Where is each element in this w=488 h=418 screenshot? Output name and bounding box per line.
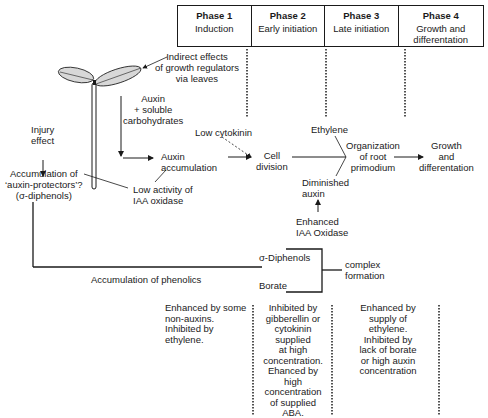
phase-3-subtitle: Late initiation: [333, 23, 389, 34]
text-line: via leaves: [155, 73, 239, 84]
text-line: (σ-diphenols): [5, 190, 83, 201]
text-line: Enhanced by some: [165, 303, 246, 314]
text-line: concentration: [259, 387, 327, 398]
low-cytokinin-label: Low cytokinin: [195, 127, 252, 138]
indirect-effects-label: Indirect effects of growth regulators vi…: [155, 51, 239, 84]
text-line: of growth regulators: [155, 62, 239, 73]
phase-2-subtitle: Early initiation: [258, 23, 317, 34]
text-line: accumulation: [161, 162, 217, 173]
text-line: Ehanced by: [259, 366, 327, 377]
phase-table: Phase 1 Induction Phase 2 Early initiati…: [177, 5, 484, 47]
text-line: Diminished: [302, 177, 349, 188]
text-line: effect: [31, 135, 54, 146]
text-line: Accumulation of: [5, 168, 83, 179]
text-line: auxin: [302, 188, 349, 199]
text-line: Indirect effects: [155, 51, 239, 62]
phase-1-notes: Enhanced by some non-auxins. Inhibited b…: [165, 303, 246, 345]
text-line: Enhanced by: [352, 303, 424, 314]
phase-3-title: Phase 3: [325, 10, 398, 21]
phase-1-subtitle: Induction: [195, 23, 234, 34]
text-line: Low activity of: [133, 184, 193, 195]
organization-label: Organization of root primodium: [346, 140, 400, 173]
phase-4-subtitle: Growth and differentation: [413, 23, 468, 45]
text-line: ethylene.: [165, 335, 246, 346]
accumulation-phenolics-label: Accumulation of phenolics: [91, 274, 201, 285]
text-line: Inhibited by: [259, 303, 327, 314]
text-line: cytokinin: [259, 324, 327, 335]
phase-4-cell: Phase 4 Growth and differentation: [399, 6, 484, 46]
phase-3-cell: Phase 3 Late initiation: [325, 6, 399, 46]
text-line: complex: [345, 259, 385, 270]
growth-differentiation-label: Growth and differentation: [419, 140, 474, 173]
auxin-protectors-label: Accumulation of ‘auxin-protectors’? (σ-d…: [5, 168, 83, 201]
text-line: Organization: [346, 140, 400, 151]
text-line: IAA Oxidase: [296, 227, 348, 238]
auxin-accumulation-label: Auxin accumulation: [161, 151, 217, 173]
injury-effect-label: Injury effect: [31, 124, 54, 146]
text-line: Growth: [419, 140, 474, 151]
text-line: ABA.: [259, 408, 327, 418]
text-line: ‘auxin-protectors’?: [5, 179, 83, 190]
low-iaa-oxidase-label: Low activity of IAA oxidase: [133, 184, 193, 206]
phase-4-title: Phase 4: [405, 10, 478, 21]
cell-division-label: Cell division: [256, 150, 288, 172]
text-line: Injury: [31, 124, 54, 135]
text-line: division: [256, 161, 288, 172]
phase-2-cell: Phase 2 Early initiation: [252, 6, 326, 46]
text-line: lack of borate: [352, 345, 424, 356]
diminished-auxin-label: Diminished auxin: [302, 177, 349, 199]
text-line: of root: [346, 151, 400, 162]
text-line: at high: [259, 345, 327, 356]
enhanced-iaa-oxidase-label: Enhanced IAA Oxidase: [296, 216, 348, 238]
text-line: ethylene.: [352, 324, 424, 335]
borate-label: Borate: [259, 280, 287, 291]
text-line: Auxin: [123, 93, 183, 104]
phase-1-cell: Phase 1 Induction: [178, 6, 252, 46]
text-line: + soluble: [123, 104, 183, 115]
phase-2-notes: Inhibited by gibberellin or cytokinin su…: [259, 303, 327, 418]
text-line: concentration: [352, 366, 424, 377]
complex-formation-label: complex formation: [345, 259, 385, 281]
auxin-carbohydrates-label: Auxin + soluble carbohydrates: [123, 93, 183, 126]
text-line: primodium: [346, 162, 400, 173]
text-line: Cell: [256, 150, 288, 161]
phase-2-title: Phase 2: [252, 10, 325, 21]
text-line: and: [419, 151, 474, 162]
ethylene-label: Ethylene: [311, 124, 348, 135]
text-line: differentation: [419, 162, 474, 173]
text-line: carbohydrates: [123, 115, 183, 126]
text-line: formation: [345, 270, 385, 281]
text-line: Inhibited by: [165, 324, 246, 335]
text-line: IAA oxidase: [133, 195, 193, 206]
text-line: Enhanced: [296, 216, 348, 227]
o-diphenols-label: σ-Diphenols: [259, 252, 310, 263]
phase-3-notes: Enhanced by supply of ethylene. Inhibite…: [352, 303, 424, 377]
phase-1-title: Phase 1: [178, 10, 251, 21]
text-line: Auxin: [161, 151, 217, 162]
